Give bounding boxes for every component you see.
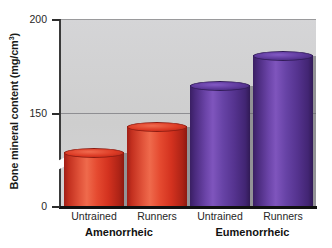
bar-amenorrheic-runners (127, 126, 187, 208)
bar-chart: Bone mineral content (mg/cm3) (0, 0, 332, 248)
y-axis-title-text: Bone mineral content (mg/cm (8, 40, 20, 189)
y-tick-label-150: 150 (29, 107, 47, 119)
bar-body (64, 152, 124, 208)
y-axis-title-tail: ) (8, 33, 20, 36)
bar-amenorrheic-untrained (64, 152, 124, 208)
bar-top-ellipse (253, 51, 313, 61)
bar-top-ellipse (127, 122, 187, 132)
y-tick-label-200: 200 (29, 13, 47, 25)
y-tick-mark-200 (52, 19, 60, 21)
group-label-eumenorrheic: Eumenorrheic (190, 226, 315, 238)
bar-top-ellipse (190, 81, 250, 91)
bar-eumenorrheic-untrained (190, 85, 250, 208)
y-tick-label-0: 0 (41, 200, 47, 212)
bar-body (190, 85, 250, 208)
y-axis-title-exponent: 3 (8, 37, 15, 41)
bar-shadow-3 (313, 56, 316, 208)
bar-body (127, 126, 187, 208)
bar-body (253, 55, 313, 208)
y-axis-title: Bone mineral content (mg/cm3) (8, 11, 21, 211)
x-label-eumenorrheic-runners: Runners (243, 210, 323, 222)
plot-top-border (60, 19, 316, 20)
bar-eumenorrheic-runners (253, 55, 313, 208)
group-label-amenorrheic: Amenorrheic (64, 226, 174, 238)
bar-top-ellipse (64, 148, 124, 158)
x-axis-line (59, 206, 317, 209)
y-tick-mark-150 (52, 113, 60, 115)
plot-area (60, 19, 316, 208)
y-tick-mark-0 (52, 206, 60, 208)
